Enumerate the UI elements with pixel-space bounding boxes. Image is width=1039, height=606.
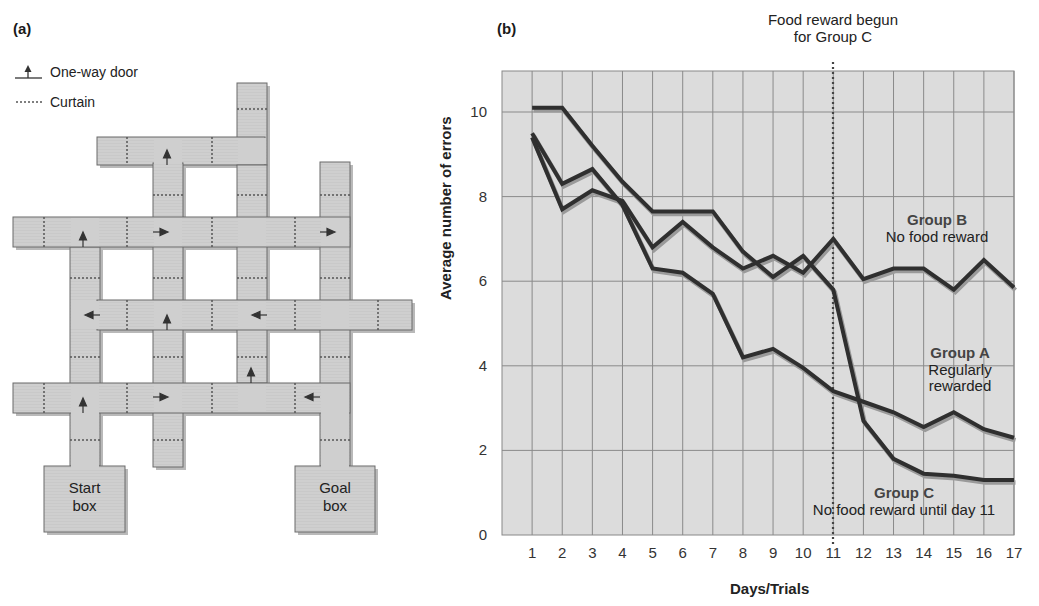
x-tick: 11 xyxy=(826,544,842,561)
annotation-line1: Food reward begun xyxy=(753,12,913,29)
x-tick: 8 xyxy=(739,544,747,561)
group-a-label: Group A Regularly rewarded xyxy=(910,345,1010,395)
x-tick: 6 xyxy=(679,544,687,561)
x-tick: 12 xyxy=(855,544,872,561)
food-reward-annotation: Food reward begun for Group C xyxy=(753,12,913,45)
x-tick: 9 xyxy=(769,544,777,561)
x-tick: 15 xyxy=(945,544,962,561)
group-a-line2: rewarded xyxy=(910,378,1010,395)
group-b-label: Group B No food reward xyxy=(872,212,1002,245)
y-tick: 10 xyxy=(470,103,487,120)
x-tick: 3 xyxy=(588,544,596,561)
y-tick-labels: 0246810 xyxy=(470,103,487,543)
y-tick: 8 xyxy=(479,188,487,205)
y-tick: 0 xyxy=(479,526,487,543)
y-tick: 2 xyxy=(479,441,487,458)
x-tick: 10 xyxy=(795,544,812,561)
x-tick: 13 xyxy=(885,544,902,561)
group-c-name: Group C xyxy=(793,485,1015,502)
x-tick: 2 xyxy=(558,544,566,561)
x-tick: 4 xyxy=(618,544,626,561)
group-a-name: Group A xyxy=(910,345,1010,362)
y-tick: 4 xyxy=(479,357,487,374)
group-b-name: Group B xyxy=(872,212,1002,229)
group-c-desc: No food reward until day 11 xyxy=(793,502,1015,519)
group-b-desc: No food reward xyxy=(872,229,1002,246)
x-tick: 5 xyxy=(648,544,656,561)
x-tick: 1 xyxy=(528,544,536,561)
group-a-line1: Regularly xyxy=(910,362,1010,379)
x-tick: 7 xyxy=(709,544,717,561)
plot-area xyxy=(502,71,1014,535)
x-axis-label: Days/Trials xyxy=(730,580,809,597)
x-tick-labels: 1234567891011121314151617 xyxy=(528,544,1022,561)
x-tick: 17 xyxy=(1006,544,1023,561)
y-tick: 6 xyxy=(479,272,487,289)
x-tick: 14 xyxy=(915,544,932,561)
y-axis-label: Average number of errors xyxy=(437,116,454,300)
x-tick: 16 xyxy=(976,544,993,561)
group-c-label: Group C No food reward until day 11 xyxy=(793,485,1015,518)
annotation-line2: for Group C xyxy=(753,29,913,46)
